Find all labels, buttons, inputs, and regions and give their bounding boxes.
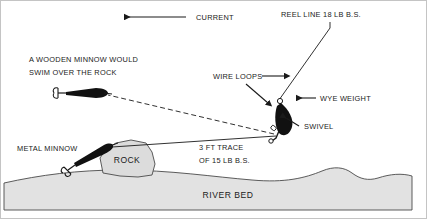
fishing-rig-diagram: RIVER BED ROCK — [0, 0, 427, 219]
trace-label-line1: 3 FT TRACE — [199, 143, 244, 152]
wire-loop-top-icon — [277, 98, 282, 103]
rock-label: ROCK — [114, 155, 140, 165]
diagram-canvas: RIVER BED ROCK — [0, 0, 427, 219]
wooden-minnow-note-line1: A WOODEN MINNOW WOULD — [29, 55, 138, 64]
metal-minnow-label: METAL MINNOW — [17, 144, 77, 153]
metal-minnow-label-group: METAL MINNOW — [17, 144, 77, 153]
wooden-minnow-note-line2: SWIM OVER THE ROCK — [29, 68, 117, 77]
river-bed-label: RIVER BED — [203, 190, 254, 200]
wire-loops-label: WIRE LOOPS — [213, 72, 262, 81]
reel-line-label: REEL LINE 18 LB B.S. — [281, 10, 361, 19]
wye-weight-label: WYE WEIGHT — [320, 94, 371, 103]
trace-label-line2: OF 15 LB B.S. — [199, 156, 250, 165]
swivel-label: SWIVEL — [304, 122, 333, 131]
swivel-eye-icon — [269, 139, 273, 143]
current-label: CURRENT — [196, 13, 234, 22]
